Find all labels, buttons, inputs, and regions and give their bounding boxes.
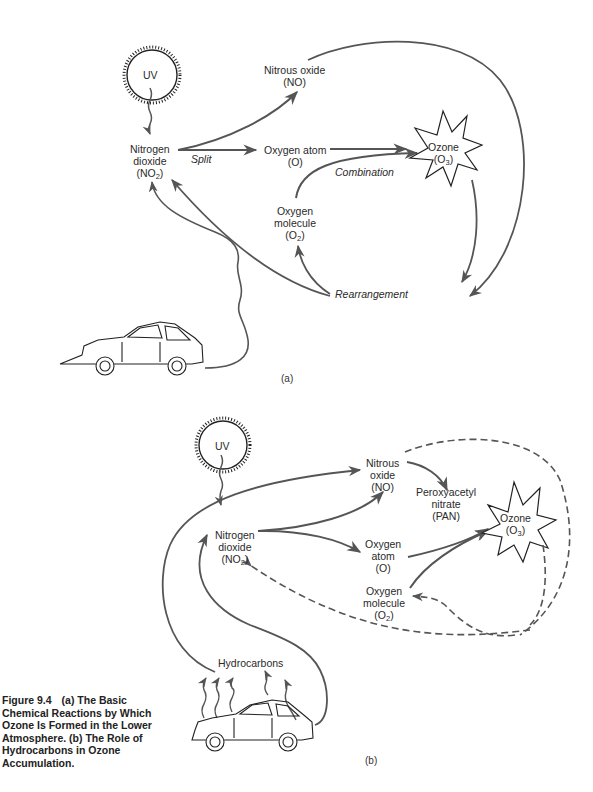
node-name: Peroxyacetyl: [416, 486, 476, 498]
rearrangement-label: Rearrangement: [335, 288, 408, 300]
node-formula: (O3): [500, 524, 531, 540]
car-icon: [60, 322, 203, 375]
nitrous-oxide-label-b: Nitrous oxide (NO): [366, 457, 399, 493]
ozone-reaction-diagram: [0, 0, 593, 792]
node-name: Oxygen: [365, 538, 401, 550]
node-formula: (NO2): [215, 553, 255, 569]
node-name2: nitrate: [416, 498, 476, 510]
panel-b-tag: (b): [365, 755, 377, 766]
uv-label-a: UV: [143, 69, 158, 81]
oxygen-atom-label-a: Oxygen atom (O): [264, 144, 326, 168]
car-icon: [192, 700, 313, 751]
node-name2: molecule: [274, 217, 316, 229]
node-formula: (O): [264, 156, 326, 168]
figure-number: Figure 9.4: [2, 694, 52, 706]
nitrous-oxide-label-a: Nitrous oxide (NO): [264, 64, 325, 88]
oxygen-molecule-label-b: Oxygen molecule (O2): [363, 585, 405, 625]
hydrocarbons-label: Hydrocarbons: [218, 657, 283, 669]
node-name: Oxygen: [274, 205, 316, 217]
hydrocarbon-emission-icon: [202, 671, 296, 720]
ozone-label-a: Ozone (O3): [428, 141, 459, 169]
node-formula: (PAN): [416, 510, 476, 522]
oxygen-molecule-label-a: Oxygen molecule (O2): [274, 205, 316, 245]
node-formula: (NO2): [130, 167, 170, 183]
node-name: Nitrous: [366, 457, 399, 469]
nitrogen-dioxide-label-a: Nitrogen dioxide (NO2): [130, 143, 170, 183]
node-name2: atom: [365, 550, 401, 562]
node-formula: (NO): [264, 76, 325, 88]
oxygen-atom-label-b: Oxygen atom (O): [365, 538, 401, 574]
node-formula: (O2): [274, 229, 316, 245]
node-formula: (O3): [428, 153, 459, 169]
node-formula: (O2): [363, 609, 405, 625]
pan-label-b: Peroxyacetyl nitrate (PAN): [416, 486, 476, 522]
node-name: Nitrous oxide: [264, 64, 325, 76]
node-name2: dioxide: [130, 155, 170, 167]
node-name: Ozone: [428, 141, 459, 153]
nitrogen-dioxide-label-b: Nitrogen dioxide (NO2): [215, 529, 255, 569]
node-name: Oxygen atom: [264, 144, 326, 156]
panel-a-tag: (a): [281, 373, 293, 384]
node-name: Nitrogen: [215, 529, 255, 541]
node-formula: (NO): [366, 481, 399, 493]
node-name2: dioxide: [215, 541, 255, 553]
node-name: Ozone: [500, 512, 531, 524]
ozone-label-b: Ozone (O3): [500, 512, 531, 540]
combination-label: Combination: [335, 166, 394, 178]
node-name2: molecule: [363, 597, 405, 609]
uv-label-b: UV: [215, 440, 230, 452]
node-name: Oxygen: [363, 585, 405, 597]
figure-caption: Figure 9.4(a) The Basic Chemical Reactio…: [2, 694, 162, 769]
node-name2: oxide: [366, 469, 399, 481]
node-name: Nitrogen: [130, 143, 170, 155]
split-label: Split: [191, 153, 211, 165]
node-formula: (O): [365, 562, 401, 574]
